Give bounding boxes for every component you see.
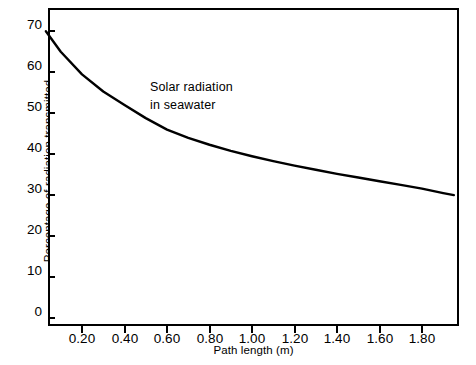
y-tick-label-40: 40 <box>8 141 42 155</box>
y-tick-label-30: 30 <box>8 182 42 196</box>
y-tick-label-70: 70 <box>8 18 42 32</box>
y-tick-label-60: 60 <box>8 59 42 73</box>
y-tick-mark-30 <box>48 194 55 196</box>
x-axis-label: Path length (m) <box>48 344 459 356</box>
plot-area <box>48 8 459 326</box>
y-tick-mark-20 <box>48 235 55 237</box>
chart-figure: Percentage of radiation transmitted 0 10… <box>0 0 476 365</box>
y-tick-mark-60 <box>48 71 55 73</box>
y-tick-label-10: 10 <box>8 264 42 278</box>
y-tick-mark-0 <box>48 317 55 319</box>
y-tick-mark-70 <box>48 30 55 32</box>
y-tick-label-20: 20 <box>8 223 42 237</box>
y-tick-mark-50 <box>48 112 55 114</box>
y-tick-label-50: 50 <box>8 100 42 114</box>
y-tick-mark-10 <box>48 276 55 278</box>
curve-annotation: Solar radiation in seawater <box>150 78 233 114</box>
y-tick-label-0: 0 <box>8 305 42 319</box>
y-tick-mark-40 <box>48 153 55 155</box>
